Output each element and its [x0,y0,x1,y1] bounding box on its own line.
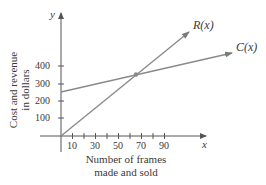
series-label-c: C(x) [236,41,257,53]
series-label-r: R(x) [193,19,214,31]
break-even-point [134,72,138,76]
y-tick-label-100: 100 [35,113,50,123]
x-tick-label-90: 90 [159,141,169,151]
y-tick-label-300: 300 [35,79,50,89]
y-axis-symbol: y [50,8,55,20]
y-tick-label-400: 400 [35,61,50,71]
cost-line-c [61,53,232,92]
x-axis-symbol: x [202,138,207,150]
x-axis-title-line2: made and sold [71,166,181,179]
revenue-line-r [61,32,189,136]
y-axis-title-line2: in dollars [19,52,31,128]
y-axis-title: Cost and revenue in dollars [7,52,31,128]
x-tick-label-50: 50 [113,141,123,151]
x-axis-title-line1: Number of frames [71,153,181,166]
x-tick-label-30: 30 [90,141,100,151]
y-axis-title-line1: Cost and revenue [7,52,19,128]
x-tick-label-10: 10 [67,141,77,151]
y-tick-label-200: 200 [35,96,50,106]
x-axis-title: Number of frames made and sold [71,153,181,179]
x-tick-label-70: 70 [136,141,146,151]
